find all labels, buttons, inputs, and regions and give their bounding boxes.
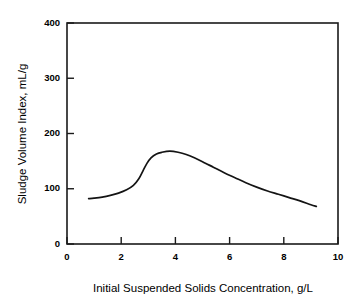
x-tick-label-6: 6 <box>227 251 232 262</box>
x-tick-label-8: 8 <box>281 251 286 262</box>
y-tick-label-200: 200 <box>44 127 60 138</box>
y-tick-label-400: 400 <box>44 17 60 28</box>
y-tick-label-100: 100 <box>44 182 60 193</box>
y-tick-label-300: 300 <box>44 72 60 83</box>
y-tick-label-0: 0 <box>55 238 60 249</box>
x-tick-label-2: 2 <box>119 251 124 262</box>
chart-figure: 0 100 200 300 400 0 2 4 6 8 10 Initial S… <box>0 0 360 305</box>
x-tick-label-0: 0 <box>64 251 69 262</box>
y-axis-title: Sludge Volume Index, mL/g <box>16 64 28 205</box>
x-tick-label-10: 10 <box>333 251 344 262</box>
sludge-volume-index-line-chart: 0 100 200 300 400 0 2 4 6 8 10 Initial S… <box>0 0 360 305</box>
x-axis-title: Initial Suspended Solids Concentration, … <box>93 282 314 294</box>
x-tick-label-4: 4 <box>173 251 179 262</box>
